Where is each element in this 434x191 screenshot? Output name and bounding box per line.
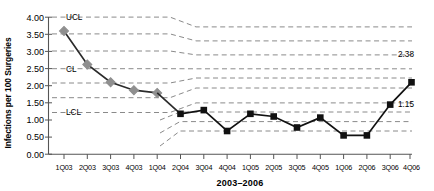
y-axis-title: Infections per 100 Surgeries: [3, 37, 13, 148]
data-point: [340, 132, 347, 139]
y-tick-label: 1.50: [26, 98, 44, 108]
chart-canvas: Infections per 100 Surgeries 0.00 0.50 1…: [0, 0, 434, 191]
x-tick-label: 3Q06: [382, 163, 399, 172]
data-point: [201, 107, 208, 114]
data-point: [387, 101, 394, 108]
phase2-lcl-line: [160, 131, 412, 146]
phase2-ucl-value: 2.38: [398, 50, 414, 59]
phase1-sigma1-upper-line: [52, 51, 412, 55]
y-tick-label: 1.00: [26, 115, 44, 125]
x-tick-label: 3Q05: [289, 163, 306, 172]
x-tick-label: 1Q05: [242, 163, 259, 172]
y-tick-label: 2.00: [26, 81, 44, 91]
phase1-sigma2-lower-line: [52, 88, 412, 98]
phase2-control-limits: [160, 112, 412, 146]
phase1-ucl-line: [52, 17, 412, 27]
phase2-cl-value: 1.15: [398, 100, 414, 109]
x-tick-label: 3Q03: [102, 163, 119, 172]
data-point: [317, 114, 324, 121]
x-tick-label: 2Q05: [265, 163, 282, 172]
ucl-label: UCL: [66, 13, 83, 22]
x-axis: [49, 154, 413, 159]
phase1-data-markers: [59, 26, 161, 97]
data-point: [177, 111, 184, 118]
data-point: [408, 79, 415, 86]
data-point: [364, 132, 371, 139]
y-tick-label: 2.50: [26, 64, 44, 74]
x-tick-label: 2Q04: [172, 163, 189, 172]
x-tick-label: 3Q04: [195, 163, 212, 172]
y-axis: [45, 17, 52, 154]
y-tick-labels: 0.00 0.50 1.00 1.50 2.00 2.50 3.00 3.50 …: [26, 13, 44, 160]
lcl-label: LCL: [66, 108, 81, 117]
x-tick-label: 4Q03: [126, 163, 143, 172]
x-tick-labels: 1Q03 2Q03 3Q03 4Q03 1Q04 2Q04 3Q04 4Q04 …: [56, 163, 420, 172]
data-point: [270, 113, 277, 120]
x-tick-label: 4Q05: [312, 163, 329, 172]
data-point: [224, 128, 231, 135]
x-tick-label: 4Q06: [403, 163, 420, 172]
x-tick-label: 1Q03: [56, 163, 73, 172]
y-tick-label: 0.50: [26, 132, 44, 142]
cl-label: CL: [66, 65, 77, 74]
y-tick-label: 0.00: [26, 150, 44, 160]
y-tick-label: 3.50: [26, 30, 44, 40]
x-axis-title: 2003–2006: [217, 178, 264, 188]
x-tick-label: 2Q06: [359, 163, 376, 172]
phase2-sigma1-lower-line: [160, 112, 412, 120]
x-tick-label: 1Q04: [149, 163, 166, 172]
phase1-sigma2-upper-line: [52, 34, 412, 41]
phase1-lcl-line: [52, 103, 412, 113]
y-tick-label: 3.00: [26, 47, 44, 57]
data-point: [129, 86, 138, 95]
phase1-control-limits: [52, 17, 412, 112]
y-tick-label: 4.00: [26, 13, 44, 23]
x-tick-label: 1Q06: [335, 163, 352, 172]
spc-chart: Infections per 100 Surgeries 0.00 0.50 1…: [0, 0, 434, 191]
data-point: [247, 111, 254, 118]
phase-connector-line: [157, 93, 180, 114]
x-tick-label: 2Q03: [79, 163, 96, 172]
data-point: [294, 124, 301, 131]
x-tick-label: 4Q04: [219, 163, 236, 172]
